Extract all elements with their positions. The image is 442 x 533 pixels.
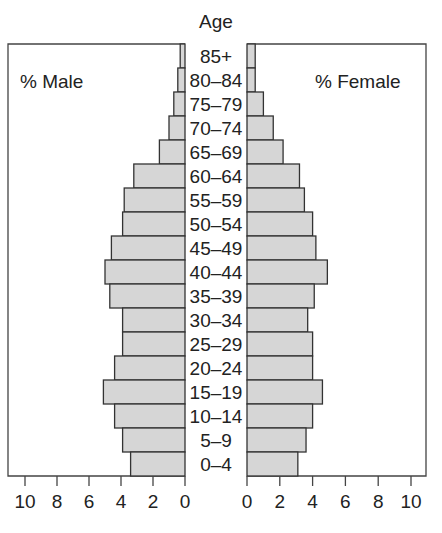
age-group-label: 25–29 bbox=[190, 334, 243, 355]
male-bar bbox=[180, 44, 185, 68]
male-bar bbox=[111, 236, 185, 260]
age-group-label: 85+ bbox=[200, 46, 232, 67]
male-bar bbox=[123, 212, 185, 236]
x-tick-label: 8 bbox=[373, 491, 384, 512]
male-bar bbox=[123, 428, 185, 452]
male-bar bbox=[124, 188, 185, 212]
age-group-label: 75–79 bbox=[190, 94, 243, 115]
x-tick-label: 6 bbox=[84, 491, 95, 512]
x-tick-label: 10 bbox=[14, 491, 35, 512]
male-bar bbox=[110, 284, 185, 308]
female-bar bbox=[247, 428, 306, 452]
x-tick-label: 10 bbox=[400, 491, 421, 512]
female-bar bbox=[247, 92, 263, 116]
age-group-label: 70–74 bbox=[190, 118, 243, 139]
female-bar bbox=[247, 140, 283, 164]
female-bar bbox=[247, 116, 273, 140]
x-tick-label: 6 bbox=[340, 491, 351, 512]
male-bar bbox=[174, 92, 185, 116]
age-group-label: 45–49 bbox=[190, 238, 243, 259]
male-bars bbox=[103, 44, 185, 476]
age-group-label: 5–9 bbox=[200, 430, 232, 451]
male-bar bbox=[178, 68, 185, 92]
male-x-axis: 1086420 bbox=[14, 476, 190, 512]
age-group-label: 0–4 bbox=[200, 454, 232, 475]
female-bar bbox=[247, 404, 313, 428]
age-group-label: 20–24 bbox=[190, 358, 243, 379]
age-group-label: 35–39 bbox=[190, 286, 243, 307]
age-group-label: 55–59 bbox=[190, 190, 243, 211]
female-axis-label: % Female bbox=[315, 71, 401, 92]
male-bar bbox=[169, 116, 185, 140]
female-bars bbox=[247, 44, 327, 476]
female-bar bbox=[247, 44, 255, 68]
female-bar bbox=[247, 356, 313, 380]
age-group-label: 65–69 bbox=[190, 142, 243, 163]
x-tick-label: 8 bbox=[52, 491, 63, 512]
age-group-label: 80–84 bbox=[190, 70, 243, 91]
x-tick-label: 4 bbox=[307, 491, 318, 512]
male-bar bbox=[134, 164, 185, 188]
x-tick-label: 2 bbox=[148, 491, 159, 512]
age-group-label: 10–14 bbox=[190, 406, 243, 427]
age-group-label: 30–34 bbox=[190, 310, 243, 331]
age-group-label: 40–44 bbox=[190, 262, 243, 283]
age-group-label: 50–54 bbox=[190, 214, 243, 235]
x-tick-label: 0 bbox=[242, 491, 253, 512]
male-bar bbox=[123, 308, 185, 332]
male-bar bbox=[131, 452, 185, 476]
female-bar bbox=[247, 260, 327, 284]
age-group-label: 60–64 bbox=[190, 166, 243, 187]
female-bar bbox=[247, 188, 304, 212]
female-bar bbox=[247, 284, 314, 308]
female-x-axis: 0246810 bbox=[242, 476, 422, 512]
male-bar bbox=[115, 404, 185, 428]
female-bar bbox=[247, 308, 308, 332]
chart-title: Age bbox=[199, 11, 233, 32]
x-tick-label: 0 bbox=[180, 491, 191, 512]
female-bar bbox=[247, 452, 298, 476]
female-bar bbox=[247, 236, 316, 260]
female-bar bbox=[247, 380, 322, 404]
female-bar bbox=[247, 212, 313, 236]
female-bar bbox=[247, 68, 255, 92]
female-bar bbox=[247, 164, 299, 188]
male-axis-label: % Male bbox=[20, 71, 83, 92]
male-bar bbox=[159, 140, 185, 164]
male-bar bbox=[115, 356, 185, 380]
male-bar bbox=[103, 380, 185, 404]
x-tick-label: 4 bbox=[116, 491, 127, 512]
female-bar bbox=[247, 332, 313, 356]
age-group-label: 15–19 bbox=[190, 382, 243, 403]
x-tick-label: 2 bbox=[275, 491, 286, 512]
male-bar bbox=[105, 260, 185, 284]
male-bar bbox=[123, 332, 185, 356]
age-group-labels: 85+80–8475–7970–7465–6960–6455–5950–5445… bbox=[190, 46, 243, 475]
